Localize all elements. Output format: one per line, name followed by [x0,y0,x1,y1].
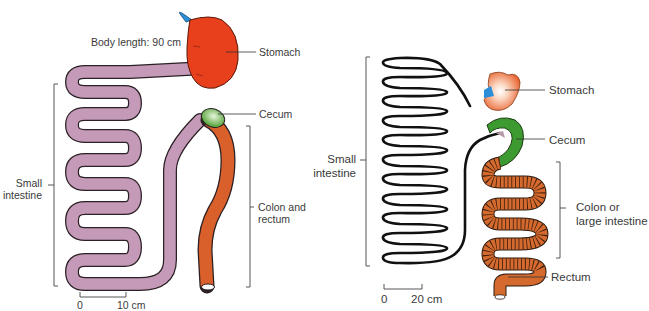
left-small-intestine-line1: Small [2,177,42,189]
right-colon [488,163,542,299]
right-scale-end: 20 cm [411,292,442,306]
right-colon-line1: Colon or [576,200,648,214]
right-stomach [484,72,520,110]
left-panel [48,12,256,297]
left-scale-end: 10 cm [117,299,146,311]
left-stomach [179,12,238,88]
right-scale-start: 0 [381,292,387,306]
right-colon-label: Colon or large intestine [576,200,648,228]
right-small-intestine-line2: intestine [312,166,356,180]
right-colon-line2: large intestine [576,214,648,228]
right-cecum-label: Cecum [549,133,585,147]
left-small-intestine-bracket [48,84,58,286]
left-scale-bar [80,292,126,297]
right-panel [360,57,566,299]
right-rectum-label: Rectum [551,270,591,284]
right-small-intestine-label: Small intestine [312,152,356,180]
body-length-label: Body length: 90 cm [91,36,181,48]
left-small-intestine-label: Small intestine [2,177,42,201]
left-colon-line1: Colon and [258,201,306,213]
left-scale-start: 0 [77,299,83,311]
left-small-intestine-line2: intestine [2,189,42,201]
left-colon-bracket [246,126,254,287]
left-cecum-label: Cecum [259,108,292,120]
right-small-intestine-bracket [360,57,370,266]
right-colon-bracket [556,162,566,258]
left-small-intestine [72,68,206,284]
left-stomach-label: Stomach [259,46,300,58]
right-small-intestine-line1: Small [312,152,356,166]
left-colon-line2: rectum [258,213,306,225]
left-colon [202,120,229,290]
right-scale-bar [384,284,422,289]
right-small-intestine [383,58,500,263]
right-stomach-label: Stomach [549,83,594,97]
left-colon-label: Colon and rectum [258,201,306,225]
